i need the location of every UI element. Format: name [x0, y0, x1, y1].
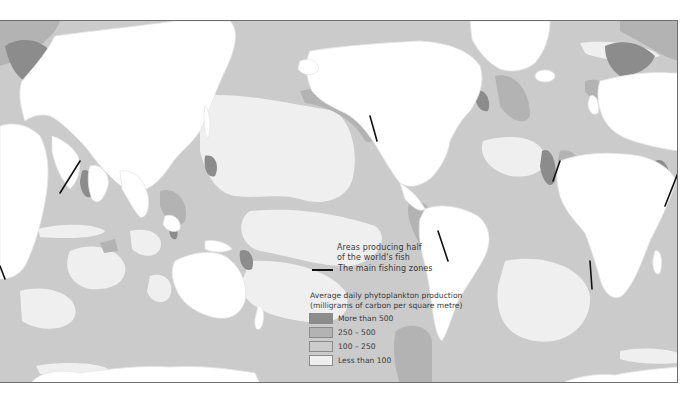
swatch-100-250 [309, 341, 333, 352]
legend-label-more-than-500: More than 500 [338, 313, 393, 324]
swatch-more-than-500 [309, 313, 333, 324]
production-title-line2: (milligrams of carbon per square metre) [310, 301, 463, 311]
swatch-250-500 [309, 327, 333, 338]
world-map: Areas producing half of the world's fish… [0, 20, 678, 383]
half-fish-label-line1: Areas producing half [337, 243, 422, 253]
half-fish-label-line2: of the world's fish [337, 253, 410, 263]
legend-label-250-500: 250 – 500 [338, 327, 376, 338]
legend-label-less-than-100: Less than 100 [338, 355, 391, 366]
production-title-line1: Average daily phytoplankton production [310, 291, 462, 301]
fishing-zone-line-icon [312, 269, 333, 271]
fishing-zones-label: The main fishing zones [338, 264, 433, 274]
legend-label-100-250: 100 – 250 [338, 341, 376, 352]
swatch-less-than-100 [309, 355, 333, 366]
